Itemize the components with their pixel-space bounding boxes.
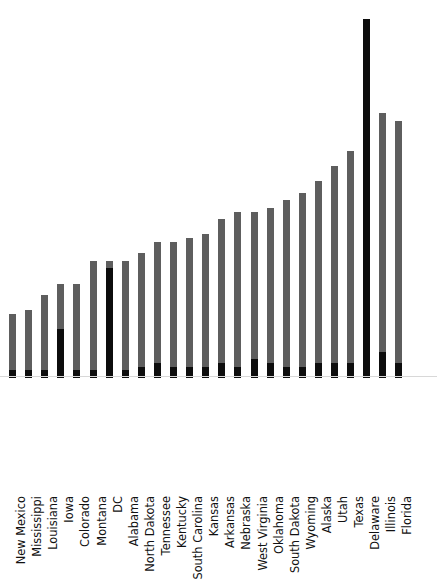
category-label: Texas bbox=[354, 496, 365, 527]
bar-illinois[interactable] bbox=[379, 2, 386, 378]
bar-segment-upper bbox=[106, 261, 113, 269]
category-label: Oklahoma bbox=[274, 496, 285, 554]
bar-colorado[interactable] bbox=[73, 2, 80, 378]
bar-segment-lower bbox=[57, 329, 64, 378]
bar-florida[interactable] bbox=[395, 2, 402, 378]
category-label: South Carolina bbox=[193, 496, 204, 580]
bar-segment-upper bbox=[379, 113, 386, 351]
bar-segment-upper bbox=[347, 151, 354, 363]
category-label: Alaska bbox=[322, 496, 333, 533]
bar-dc[interactable] bbox=[106, 2, 113, 378]
bar-utah[interactable] bbox=[331, 2, 338, 378]
bar-segment-lower bbox=[363, 19, 370, 378]
bar-south-dakota[interactable] bbox=[283, 2, 290, 378]
bar-segment-upper bbox=[218, 219, 225, 363]
x-axis-line bbox=[0, 376, 437, 377]
bar-montana[interactable] bbox=[90, 2, 97, 378]
bar-segment-upper bbox=[234, 212, 241, 367]
category-label: New Mexico bbox=[16, 496, 27, 564]
bar-segment-upper bbox=[267, 208, 274, 363]
category-axis-labels: New MexicoMississippiLouisianaIowaColora… bbox=[0, 378, 437, 499]
bar-segment-lower bbox=[106, 268, 113, 378]
bar-alabama[interactable] bbox=[122, 2, 129, 378]
category-label: Iowa bbox=[64, 496, 75, 523]
bar-kentucky[interactable] bbox=[170, 2, 177, 378]
bar-iowa[interactable] bbox=[57, 2, 64, 378]
category-label: Louisiana bbox=[48, 496, 59, 550]
bar-south-carolina[interactable] bbox=[186, 2, 193, 378]
category-label: North Dakota bbox=[145, 496, 156, 572]
category-label: Alabama bbox=[129, 496, 140, 546]
bar-wyoming[interactable] bbox=[299, 2, 306, 378]
bar-segment-upper bbox=[9, 314, 16, 371]
category-label: DC bbox=[113, 496, 124, 513]
category-label: South Dakota bbox=[290, 496, 301, 573]
category-label: Montana bbox=[97, 496, 108, 546]
bar-segment-upper bbox=[170, 242, 177, 367]
category-label: Kansas bbox=[209, 496, 220, 536]
bar-segment-upper bbox=[122, 261, 129, 371]
bar-new-mexico[interactable] bbox=[9, 2, 16, 378]
category-label: Delaware bbox=[370, 496, 381, 550]
category-label: Mississippi bbox=[32, 496, 43, 557]
category-label: West Virginia bbox=[258, 496, 269, 571]
bar-segment-upper bbox=[315, 181, 322, 362]
bar-segment-upper bbox=[90, 261, 97, 371]
bar-west-virginia[interactable] bbox=[251, 2, 258, 378]
category-label: Kentucky bbox=[177, 496, 188, 548]
bar-segment-upper bbox=[251, 212, 258, 359]
bar-segment-upper bbox=[154, 242, 161, 363]
category-label: Tennessee bbox=[161, 496, 172, 555]
bar-nebraska[interactable] bbox=[234, 2, 241, 378]
bar-delaware[interactable] bbox=[363, 2, 370, 378]
category-label: Illinois bbox=[386, 496, 397, 532]
category-label: Utah bbox=[338, 496, 349, 523]
bar-segment-upper bbox=[73, 284, 80, 371]
bar-segment-upper bbox=[25, 310, 32, 370]
bar-segment-upper bbox=[41, 295, 48, 371]
bar-oklahoma[interactable] bbox=[267, 2, 274, 378]
bar-segment-upper bbox=[299, 193, 306, 367]
bar-segment-upper bbox=[57, 284, 64, 329]
bar-tennessee[interactable] bbox=[154, 2, 161, 378]
bar-segment-upper bbox=[283, 200, 290, 366]
bar-mississippi[interactable] bbox=[25, 2, 32, 378]
category-label: Nebraska bbox=[241, 496, 252, 550]
bar-segment-upper bbox=[138, 253, 145, 366]
category-label: Wyoming bbox=[306, 496, 317, 549]
bar-segment-lower bbox=[379, 352, 386, 378]
bar-arkansas[interactable] bbox=[218, 2, 225, 378]
bar-segment-upper bbox=[331, 166, 338, 363]
bar-north-dakota[interactable] bbox=[138, 2, 145, 378]
bar-louisiana[interactable] bbox=[41, 2, 48, 378]
bar-segment-upper bbox=[395, 121, 402, 363]
bar-segment-upper bbox=[202, 234, 209, 366]
bar-texas[interactable] bbox=[347, 2, 354, 378]
category-label: Arkansas bbox=[225, 496, 236, 548]
category-label: Florida bbox=[402, 496, 413, 535]
bar-segment-upper bbox=[186, 238, 193, 367]
bar-alaska[interactable] bbox=[315, 2, 322, 378]
bar-kansas[interactable] bbox=[202, 2, 209, 378]
category-label: Colorado bbox=[80, 496, 91, 547]
plot-area bbox=[0, 0, 437, 378]
